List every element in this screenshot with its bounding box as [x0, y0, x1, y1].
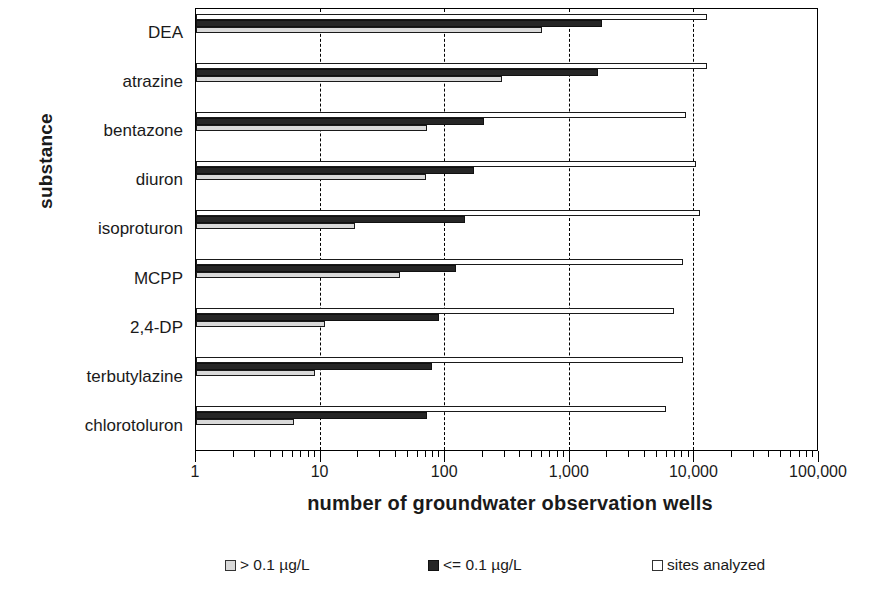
x-tick-minor: [688, 451, 689, 457]
y-axis-label: diuron: [10, 156, 190, 205]
x-tick-minor: [519, 451, 520, 457]
x-tick-minor: [731, 451, 732, 457]
x-tick-minor: [541, 451, 542, 457]
x-tick-minor: [300, 451, 301, 457]
chart-legend: > 0.1 µg/L<= 0.1 µg/Lsites analyzed: [180, 552, 840, 578]
x-tick-minor: [292, 451, 293, 457]
y-axis-label: terbutylazine: [10, 353, 190, 402]
x-tick-label: 10,000: [669, 463, 718, 481]
x-tick-minor: [644, 451, 645, 457]
y-axis-label: 2,4-DP: [10, 303, 190, 352]
bar-gt: [196, 27, 542, 33]
x-tick-minor: [432, 451, 433, 457]
bar-gt: [196, 76, 502, 82]
x-tick-label: 1,000: [549, 463, 589, 481]
y-axis-category-labels: DEAatrazinebentazonediuronisoproturonMCP…: [10, 8, 190, 451]
plot-area: [195, 8, 818, 451]
x-tick-major: [818, 451, 819, 462]
x-tick-minor: [780, 451, 781, 457]
bar-group: [196, 107, 817, 156]
legend-swatch-gt: [225, 560, 236, 571]
legend-label: > 0.1 µg/L: [240, 556, 310, 574]
bar-group: [196, 205, 817, 254]
x-tick-major: [444, 451, 445, 462]
bar-group: [196, 9, 817, 58]
y-axis-label: atrazine: [10, 57, 190, 106]
legend-label: <= 0.1 µg/L: [443, 556, 522, 574]
bar-group: [196, 303, 817, 352]
x-tick-minor: [656, 451, 657, 457]
x-tick-minor: [557, 451, 558, 457]
x-axis-title: number of groundwater observation wells: [150, 492, 870, 515]
bar-group: [196, 156, 817, 205]
x-tick-minor: [395, 451, 396, 457]
bar-group: [196, 58, 817, 107]
bar-gt: [196, 174, 426, 180]
x-tick-minor: [563, 451, 564, 457]
x-tick-major: [320, 451, 321, 462]
bar-groups: [196, 9, 817, 450]
x-tick-minor: [357, 451, 358, 457]
x-tick-label: 1: [191, 463, 200, 481]
legend-item: <= 0.1 µg/L: [428, 556, 522, 574]
legend-item: > 0.1 µg/L: [225, 556, 310, 574]
x-tick-minor: [606, 451, 607, 457]
x-tick-minor: [233, 451, 234, 457]
x-tick-major: [569, 451, 570, 462]
bar-gt: [196, 321, 325, 327]
x-tick-minor: [790, 451, 791, 457]
x-tick-minor: [549, 451, 550, 457]
x-tick-minor: [753, 451, 754, 457]
x-tick-minor: [282, 451, 283, 457]
x-tick-minor: [799, 451, 800, 457]
x-tick-minor: [531, 451, 532, 457]
x-tick-minor: [407, 451, 408, 457]
bar-group: [196, 352, 817, 401]
x-tick-minor: [308, 451, 309, 457]
y-axis-label: DEA: [10, 8, 190, 57]
x-tick-label: 10: [311, 463, 329, 481]
legend-label: sites analyzed: [667, 556, 765, 574]
bar-gt: [196, 125, 427, 131]
x-tick-minor: [768, 451, 769, 457]
bar-gt: [196, 223, 355, 229]
bar-gt: [196, 419, 294, 425]
y-axis-label: MCPP: [10, 254, 190, 303]
bar-gt: [196, 272, 400, 278]
x-tick-major: [195, 451, 196, 462]
x-tick-minor: [417, 451, 418, 457]
y-axis-label: isoproturon: [10, 205, 190, 254]
x-tick-minor: [504, 451, 505, 457]
x-tick-minor: [379, 451, 380, 457]
x-tick-minor: [806, 451, 807, 457]
x-tick-major: [693, 451, 694, 462]
x-tick-minor: [666, 451, 667, 457]
x-axis-tick-labels: 1101001,00010,000100,000: [145, 463, 871, 485]
bar-group: [196, 401, 817, 450]
x-tick-minor: [628, 451, 629, 457]
x-tick-label: 100,000: [789, 463, 847, 481]
legend-swatch-sites: [652, 560, 663, 571]
x-tick-minor: [681, 451, 682, 457]
legend-item: sites analyzed: [652, 556, 765, 574]
bar-gt: [196, 370, 315, 376]
x-tick-label: 100: [431, 463, 458, 481]
horizontal-bar-chart: substance DEAatrazinebentazonediuronisop…: [0, 0, 871, 599]
x-tick-minor: [270, 451, 271, 457]
bar-group: [196, 254, 817, 303]
y-axis-label: chlorotoluron: [10, 402, 190, 451]
x-tick-minor: [254, 451, 255, 457]
legend-swatch-lte: [428, 560, 439, 571]
x-tick-minor: [674, 451, 675, 457]
x-tick-minor: [812, 451, 813, 457]
y-axis-label: bentazone: [10, 106, 190, 155]
x-tick-minor: [314, 451, 315, 457]
x-tick-minor: [438, 451, 439, 457]
x-tick-minor: [425, 451, 426, 457]
x-tick-minor: [482, 451, 483, 457]
